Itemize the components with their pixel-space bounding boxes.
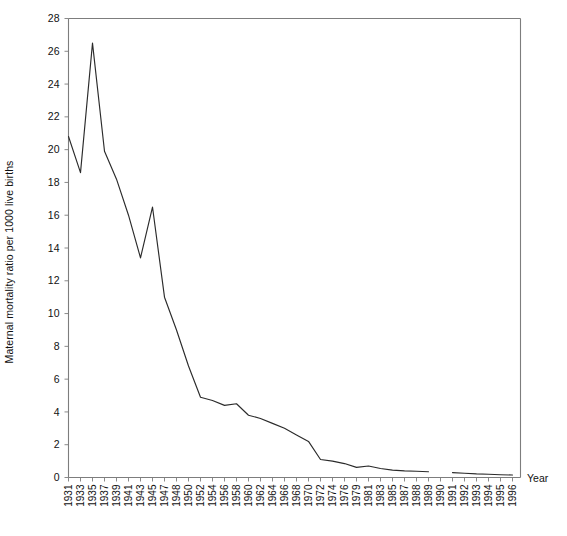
y-tick-label: 26 xyxy=(48,45,60,57)
x-tick-label: 1972 xyxy=(315,484,326,507)
x-tick-label: 1981 xyxy=(363,484,374,507)
x-tick-label: 1976 xyxy=(339,484,350,507)
x-tick-label: 1993 xyxy=(471,484,482,507)
x-tick-label: 1956 xyxy=(219,484,230,507)
y-tick-label: 2 xyxy=(54,438,60,450)
x-tick-label: 1989 xyxy=(423,484,434,507)
x-tick-label: 1962 xyxy=(255,484,266,507)
x-tick-label: 1996 xyxy=(507,484,518,507)
x-tick-label: 1952 xyxy=(195,484,206,507)
y-tick-label: 18 xyxy=(48,176,60,188)
x-tick-label: 1933 xyxy=(75,484,86,507)
y-tick-label: 12 xyxy=(48,274,60,286)
x-tick-label: 1968 xyxy=(291,484,302,507)
axis-lines xyxy=(69,19,521,478)
x-tick-label: 1964 xyxy=(267,484,278,507)
line-chart-plot: 0246810121416182022242628 19311933193519… xyxy=(0,0,567,536)
x-tick-label: 1966 xyxy=(279,484,290,507)
chart-container: Maternal mortality ratio per 1000 live b… xyxy=(0,0,567,536)
y-tick-label: 28 xyxy=(48,12,60,24)
x-tick-label: 1970 xyxy=(303,484,314,507)
x-tick-label: 1950 xyxy=(183,484,194,507)
x-tick-label: 1990 xyxy=(435,484,446,507)
x-tick-label: 1937 xyxy=(99,484,110,507)
y-tick-label: 10 xyxy=(48,307,60,319)
y-tick-label: 20 xyxy=(48,143,60,155)
x-tick-label: 1974 xyxy=(327,484,338,507)
y-tick-label: 24 xyxy=(48,78,60,90)
x-tick-label: 1979 xyxy=(351,484,362,507)
y-tick-label: 8 xyxy=(54,340,60,352)
y-tick-label: 16 xyxy=(48,209,60,221)
x-tick-label: 1939 xyxy=(111,484,122,507)
x-tick-label: 1995 xyxy=(495,484,506,507)
x-tick-label: 1958 xyxy=(231,484,242,507)
x-tick-label: 1941 xyxy=(123,484,134,507)
x-tick-label: 1954 xyxy=(207,484,218,507)
series-line-segment xyxy=(453,473,513,475)
x-tick-label: 1931 xyxy=(63,484,74,507)
y-tick-label: 22 xyxy=(48,110,60,122)
y-tick-label: 6 xyxy=(54,373,60,385)
x-tick-label: 1960 xyxy=(243,484,254,507)
x-tick-label: 1985 xyxy=(387,484,398,507)
x-axis-ticks: 1931193319351937193919411943194519471948… xyxy=(63,478,518,507)
series-line-segment xyxy=(69,43,429,472)
x-tick-label: 1987 xyxy=(399,484,410,507)
x-tick-label: 1991 xyxy=(447,484,458,507)
x-tick-label: 1988 xyxy=(411,484,422,507)
y-tick-label: 4 xyxy=(54,406,60,418)
y-tick-label: 14 xyxy=(48,242,60,254)
y-axis-ticks: 0246810121416182022242628 xyxy=(48,12,69,483)
x-tick-label: 1992 xyxy=(459,484,470,507)
y-tick-label: 0 xyxy=(54,471,60,483)
x-tick-label: 1947 xyxy=(159,484,170,507)
x-tick-label: 1994 xyxy=(483,484,494,507)
x-tick-label: 1935 xyxy=(87,484,98,507)
x-tick-label: 1983 xyxy=(375,484,386,507)
data-series-group xyxy=(69,43,513,475)
x-tick-label: 1943 xyxy=(135,484,146,507)
x-tick-label: 1945 xyxy=(147,484,158,507)
x-tick-label: 1948 xyxy=(171,484,182,507)
